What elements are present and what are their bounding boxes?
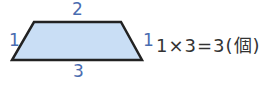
label-right: 1 [143, 32, 154, 49]
label-bottom: 3 [73, 63, 84, 80]
label-top: 2 [72, 1, 83, 18]
equation-text: 1×3=3(個) [156, 31, 261, 57]
trapezoid-shape [12, 22, 142, 60]
label-left: 1 [9, 32, 20, 49]
